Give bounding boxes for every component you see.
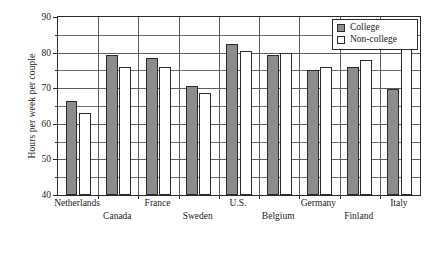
category-divider — [219, 17, 220, 195]
bar-sweden-noncollege — [199, 93, 211, 195]
bar-netherlands-college — [66, 101, 78, 195]
legend-label-college: College — [350, 23, 380, 33]
y-axis-tick — [53, 195, 58, 196]
chart-legend: College Non-college — [332, 19, 418, 50]
bar-italy-college — [387, 89, 399, 195]
category-divider — [179, 17, 180, 195]
bar-germany-college — [307, 70, 319, 195]
y-axis-tick-label: 70 — [42, 83, 52, 93]
x-axis-label-sweden: Sweden — [183, 211, 213, 221]
y-axis-tick-minor — [55, 70, 59, 71]
bar-us-college — [226, 44, 238, 195]
x-axis-label-belgium: Belgium — [262, 211, 295, 221]
legend-item-college: College — [337, 22, 414, 34]
category-divider — [299, 17, 300, 195]
bar-canada-college — [106, 55, 118, 195]
x-axis-label-canada: Canada — [103, 211, 132, 221]
y-axis-title: Hours per week per couple — [27, 11, 37, 201]
bar-netherlands-noncollege — [79, 113, 91, 195]
x-axis-tick — [380, 195, 381, 199]
y-axis-tick-label: 90 — [42, 12, 52, 22]
x-axis-tick — [219, 195, 220, 199]
y-axis-tick — [53, 88, 58, 89]
x-axis-tick — [259, 195, 260, 199]
y-axis-tick-minor — [55, 177, 59, 178]
category-divider — [138, 17, 139, 195]
legend-item-non-college: Non-college — [337, 34, 414, 46]
y-axis-tick-minor — [55, 106, 59, 107]
bar-canada-noncollege — [119, 67, 131, 195]
y-axis-tick — [53, 53, 58, 54]
bar-chart: Hours per week per couple 405060708090 C… — [0, 0, 438, 254]
y-axis-tick — [53, 124, 58, 125]
x-axis-label-us: U.S. — [230, 198, 247, 208]
x-axis-label-netherlands: Netherlands — [54, 198, 100, 208]
legend-label-non-college: Non-college — [350, 35, 397, 45]
y-axis-tick-minor — [55, 142, 59, 143]
bar-us-noncollege — [240, 51, 252, 195]
legend-swatch-college-icon — [337, 24, 345, 32]
y-axis-tick-label: 40 — [42, 190, 52, 200]
bar-germany-noncollege — [320, 67, 332, 195]
y-axis-tick-label: 60 — [42, 119, 52, 129]
y-axis-tick — [53, 159, 58, 160]
x-axis-tick — [138, 195, 139, 199]
x-axis-tick — [179, 195, 180, 199]
x-axis-label-germany: Germany — [301, 198, 336, 208]
category-divider — [259, 17, 260, 195]
bar-france-college — [146, 58, 158, 195]
bar-belgium-college — [267, 55, 279, 195]
category-divider — [98, 17, 99, 195]
legend-swatch-non-college-icon — [337, 36, 345, 44]
x-axis-label-france: France — [145, 198, 171, 208]
y-axis-tick-minor — [55, 35, 59, 36]
y-axis-tick-label: 80 — [42, 48, 52, 58]
bar-finland-college — [347, 67, 359, 195]
bar-france-noncollege — [159, 67, 171, 195]
x-axis-label-finland: Finland — [344, 211, 373, 221]
bar-finland-noncollege — [360, 60, 372, 195]
x-axis-label-italy: Italy — [390, 198, 407, 208]
y-axis-tick — [53, 17, 58, 18]
bar-belgium-noncollege — [280, 53, 292, 195]
x-axis-tick — [340, 195, 341, 199]
bar-italy-noncollege — [401, 49, 413, 195]
y-axis-tick-label: 50 — [42, 154, 52, 164]
bar-sweden-college — [186, 86, 198, 195]
